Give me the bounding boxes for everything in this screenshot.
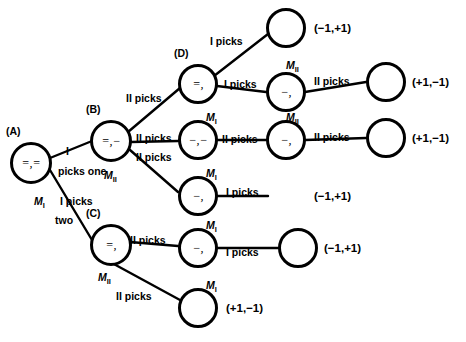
payoff-pair: (+1,−1)	[226, 302, 263, 314]
player-move-marker: MII	[286, 112, 299, 126]
marker-letter: M	[206, 279, 215, 291]
game-node-b[interactable]: =,−	[90, 120, 132, 162]
game-node-f2[interactable]	[366, 118, 406, 158]
node-tag-d: (D)	[174, 48, 189, 59]
marker-letter: M	[286, 111, 295, 123]
game-node-e2[interactable]: −,	[266, 72, 306, 112]
game-node-e1[interactable]	[266, 8, 306, 48]
payoff-pair: (−1,+1)	[314, 22, 351, 34]
player-move-marker: MII	[104, 170, 117, 184]
game-node-f4[interactable]	[178, 288, 218, 328]
edge-label: II picks	[136, 152, 172, 163]
edge-label: II picks	[314, 132, 350, 143]
player-move-marker: MI	[206, 220, 217, 234]
edge-label: I picks	[224, 79, 257, 90]
marker-subscript: I	[43, 201, 45, 210]
marker-letter: M	[206, 111, 215, 123]
marker-letter: M	[98, 271, 107, 283]
player-move-marker: MI	[34, 196, 45, 210]
edge-label: two	[55, 215, 73, 226]
edge-label: I picks	[60, 196, 93, 207]
edge-label: II picks	[130, 235, 166, 246]
marker-subscript: II	[113, 175, 117, 184]
marker-subscript: II	[107, 277, 111, 286]
marker-letter: M	[206, 219, 215, 231]
game-node-c[interactable]: =,	[90, 224, 132, 266]
edge-label: II picks	[126, 93, 162, 104]
node-label: −,	[280, 134, 291, 146]
node-tag-b: (B)	[86, 104, 101, 115]
node-label: −,	[280, 86, 291, 98]
game-node-e3[interactable]: −,−	[178, 120, 218, 160]
game-node-d[interactable]: =,	[178, 64, 218, 104]
node-label: =,=	[21, 157, 40, 169]
game-node-e5[interactable]: −,	[178, 176, 218, 216]
marker-letter: M	[286, 59, 295, 71]
player-move-marker: MI	[206, 280, 217, 294]
payoff-pair: (−1,+1)	[314, 190, 351, 202]
game-node-a[interactable]: =,=	[10, 142, 52, 184]
edge-label: II picks	[116, 291, 152, 302]
node-label: =,	[192, 78, 203, 90]
edge-label: I picks	[210, 36, 243, 47]
tree-edge	[50, 141, 92, 158]
edge-label: I picks	[226, 187, 259, 198]
game-node-e4[interactable]: −,	[266, 120, 306, 160]
marker-subscript: I	[215, 225, 217, 234]
payoff-pair: (+1,−1)	[412, 132, 449, 144]
marker-subscript: I	[215, 285, 217, 294]
game-node-e6[interactable]: −,	[178, 228, 218, 268]
edge-label: I picks	[226, 247, 259, 258]
player-move-marker: MII	[286, 60, 299, 74]
node-label: −,−	[188, 134, 207, 146]
node-tag-c: (C)	[86, 208, 101, 219]
player-move-marker: MI	[206, 112, 217, 126]
payoff-pair: (−1,+1)	[324, 242, 361, 254]
marker-subscript: II	[295, 117, 299, 126]
game-node-f1[interactable]	[366, 62, 406, 102]
edge-label: I	[66, 146, 69, 157]
game-node-f3[interactable]	[278, 228, 318, 268]
edge-label: II picks	[314, 76, 350, 87]
node-label: −,	[192, 190, 203, 202]
marker-letter: M	[34, 195, 43, 207]
node-label: =,−	[101, 135, 120, 147]
marker-subscript: I	[215, 173, 217, 182]
node-label: =,	[105, 239, 116, 251]
node-label: −,	[192, 242, 203, 254]
marker-letter: M	[104, 169, 113, 181]
player-move-marker: MI	[206, 168, 217, 182]
diagram-canvas: =,=(A)=,−(B)=,(C)=,(D)−,−,−−,−,−, Ipicks…	[0, 0, 466, 342]
marker-subscript: II	[295, 65, 299, 74]
node-tag-a: (A)	[6, 126, 21, 137]
edge-label: II picks	[222, 134, 258, 145]
edge-label: picks one	[58, 166, 106, 177]
player-move-marker: MII	[98, 272, 111, 286]
marker-letter: M	[206, 167, 215, 179]
marker-subscript: I	[215, 117, 217, 126]
edge-label: II picks	[136, 133, 172, 144]
payoff-pair: (+1,−1)	[412, 76, 449, 88]
